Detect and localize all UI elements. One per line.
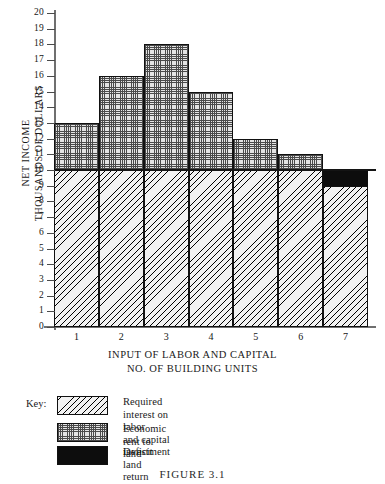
bar-segment-economic-rent (99, 76, 144, 170)
figure-caption: FIGURE 3.1 (0, 468, 385, 479)
y-axis-tick-label: 20 (0, 8, 44, 18)
y-axis-tick (47, 201, 55, 202)
legend-swatch-diagonal-hatch (57, 396, 108, 415)
y-axis-tick (47, 170, 55, 171)
y-axis-tick (47, 107, 55, 108)
y-axis-tick (47, 44, 55, 45)
chart-legend: Key: Required interest on labor and capi… (0, 396, 385, 468)
y-axis-tick (47, 139, 55, 140)
y-axis-tick-label: 7 (0, 212, 44, 222)
x-axis-title-line1: INPUT OF LABOR AND CAPITAL (0, 348, 385, 362)
y-axis-tick (47, 76, 55, 77)
y-axis-tick (47, 296, 55, 297)
y-axis-tick-label: 1 (0, 306, 44, 316)
x-axis-tick-label: 3 (154, 331, 178, 342)
y-axis-tick-label: 2 (0, 291, 44, 301)
y-axis-tick-label: 11 (0, 149, 44, 159)
bar-segment-required-interest (323, 186, 368, 327)
y-axis-tick-label: 8 (0, 196, 44, 206)
y-axis-tick-label: 9 (0, 181, 44, 191)
x-axis-tick-label: 6 (289, 331, 313, 342)
x-axis-tick-label: 7 (334, 331, 358, 342)
bar-segment-required-interest (278, 170, 323, 327)
y-axis-tick-label: 13 (0, 118, 44, 128)
y-axis-tick (47, 280, 55, 281)
y-axis-tick-label: 10 (0, 165, 44, 175)
bar-segment-required-interest (144, 170, 189, 327)
y-axis-tick-label: 4 (0, 259, 44, 269)
x-axis-tick-label: 2 (109, 331, 133, 342)
y-axis-tick-label: 17 (0, 55, 44, 65)
bar-segment-required-interest (99, 170, 144, 327)
legend-swatch-stipple-dots (57, 423, 108, 442)
y-axis-tick (47, 29, 55, 30)
y-axis-tick (47, 217, 55, 218)
bar-segment-required-interest (189, 170, 234, 327)
y-axis-tick-label: 0 (0, 322, 44, 332)
y-axis-tick (47, 186, 55, 187)
y-axis-tick-label: 5 (0, 244, 44, 254)
legend-swatch-solid-black (57, 446, 108, 465)
y-axis-tick-label: 16 (0, 71, 44, 81)
bar-segment-required-interest (233, 170, 278, 327)
y-axis-tick-label: 18 (0, 39, 44, 49)
y-axis-tick-label: 3 (0, 275, 44, 285)
bar-segment-economic-rent (233, 139, 278, 170)
reference-line-at-10 (54, 169, 376, 171)
y-axis-tick-label: 19 (0, 24, 44, 34)
x-axis-tick-label: 5 (244, 331, 268, 342)
y-axis-tick (47, 311, 55, 312)
y-axis-tick (47, 249, 55, 250)
y-axis-tick (47, 92, 55, 93)
y-axis-tick (47, 13, 55, 14)
y-axis-tick-label: 12 (0, 134, 44, 144)
legend-key-label: Key: (26, 398, 46, 409)
chart-container: NET INCOME THOUSANDS OF DOLLARS INPUT OF… (0, 0, 385, 350)
y-axis-tick-label: 15 (0, 87, 44, 97)
x-axis-title-line2: NO. OF BUILDING UNITS (0, 362, 385, 376)
y-axis-tick (47, 60, 55, 61)
bar-segment-economic-rent (189, 92, 234, 171)
y-axis-tick-label: 14 (0, 102, 44, 112)
bar-segment-economic-rent (54, 123, 99, 170)
y-axis-tick (47, 327, 55, 328)
bar-segment-economic-rent (144, 44, 189, 170)
y-axis-tick (47, 233, 55, 234)
bar-segment-required-interest (54, 170, 99, 327)
x-axis-tick-label: 4 (199, 331, 223, 342)
bar-segment-deficit-land-return (323, 170, 368, 186)
y-axis-tick (47, 154, 55, 155)
y-axis-tick-label: 6 (0, 228, 44, 238)
bar-segment-economic-rent (278, 154, 323, 170)
x-axis-tick-label: 1 (64, 331, 88, 342)
x-axis-title: INPUT OF LABOR AND CAPITAL NO. OF BUILDI… (0, 348, 385, 375)
y-axis-tick (47, 123, 55, 124)
y-axis-tick (47, 264, 55, 265)
